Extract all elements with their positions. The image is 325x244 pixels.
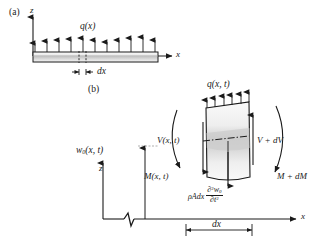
panel-b-moment-right-label: M + dM [277, 172, 307, 181]
inertia-mass-term: ρAdx [188, 192, 204, 201]
panel-b-load-label: q(x, t) [207, 80, 230, 90]
beam-element-figure: (a) [0, 0, 325, 244]
panel-b-deflection-line [138, 146, 158, 219]
panel-b-shear-left-label: V(x, t) [157, 136, 180, 145]
panel-b-element [203, 102, 250, 180]
inertia-fraction: ∂2w0∂t2 [206, 186, 222, 204]
panel-b-shear-right-label: V + dV [257, 136, 283, 145]
panel-b-dx-label: dx [212, 220, 221, 230]
panel-b-z-axis-label: z [99, 164, 103, 173]
panel-b-x-axis-label: x [301, 212, 305, 221]
panel-b-graphics [0, 0, 325, 244]
panel-b-x-axis [103, 213, 296, 226]
panel-b-deflection-label: w0(x, t) [76, 146, 103, 156]
panel-b-inertia-label: ρAdx ∂2w0∂t2 [188, 186, 223, 204]
panel-b-moment-left-label: M(x, t) [144, 172, 169, 181]
